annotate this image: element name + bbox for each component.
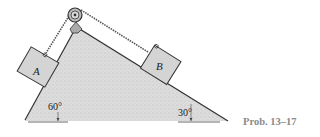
angle-label-60: 60° — [48, 101, 62, 112]
block-a-label: A — [32, 65, 40, 77]
angle-label-30: 30° — [178, 107, 192, 118]
pulley-icon — [68, 8, 82, 22]
figure-caption: Prob. 13–17 — [243, 116, 296, 127]
block-b-label: B — [156, 60, 163, 72]
pulley-bracket — [70, 22, 82, 33]
